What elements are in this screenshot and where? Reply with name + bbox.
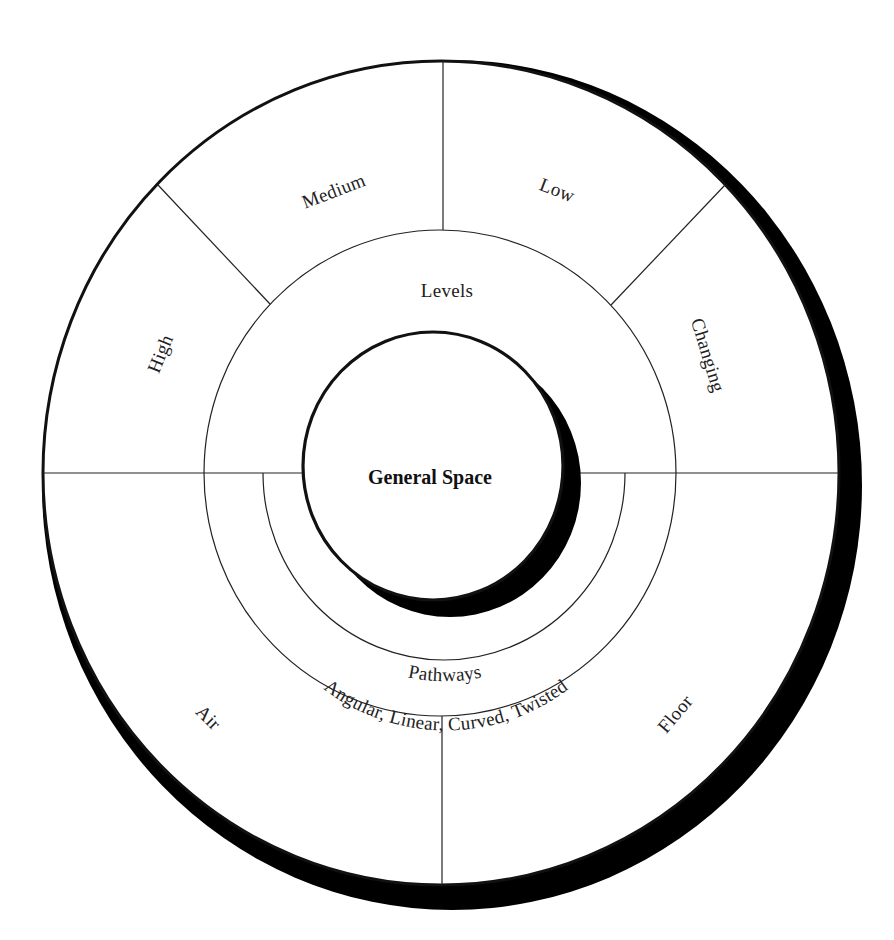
- general-space-diagram: General Space Levels Pathways Angular, L…: [0, 0, 894, 940]
- levels-label: Levels: [421, 280, 473, 301]
- center-label: General Space: [368, 466, 492, 489]
